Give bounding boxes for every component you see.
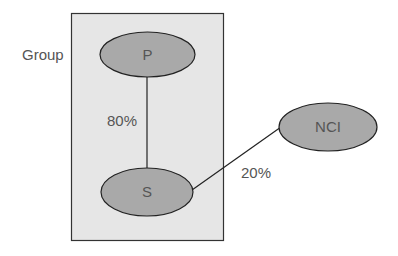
edge-s-nci-label: 20% (241, 164, 271, 181)
ownership-diagram: Group P S NCI 80% 20% (0, 0, 398, 256)
node-s-label: S (142, 183, 152, 200)
edge-p-s-label: 80% (107, 112, 137, 129)
group-label: Group (22, 46, 64, 63)
node-p-label: P (142, 46, 152, 63)
node-nci-label: NCI (315, 118, 341, 135)
